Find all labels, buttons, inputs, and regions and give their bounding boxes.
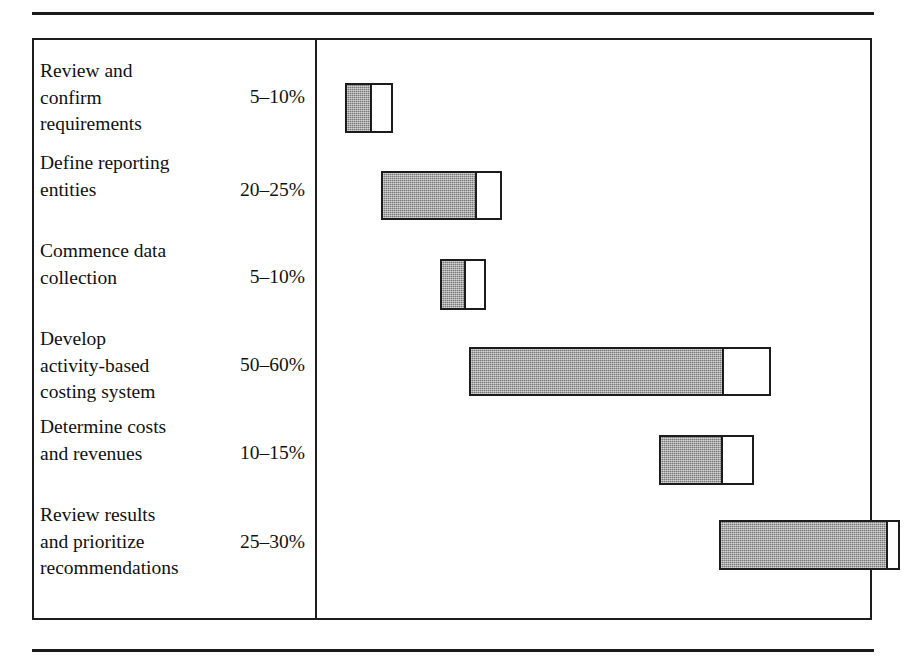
task-name-1: Review and confirm requirements [40, 58, 210, 138]
gantt-bar-3-filled-segment [442, 261, 466, 308]
gantt-bar-5-filled-segment [661, 437, 723, 483]
task-name-2: Define reporting entities [40, 150, 210, 203]
gantt-bar-2-filled-segment [383, 173, 477, 218]
gantt-bar-4-open-segment [724, 349, 769, 394]
gantt-bar-2-open-segment [477, 173, 500, 218]
task-effort-2: 20–25% [240, 177, 305, 204]
gantt-plot-area [317, 40, 870, 618]
gantt-bar-4[interactable] [469, 347, 771, 396]
task-effort-6: 25–30% [240, 529, 305, 556]
task-name-3: Commence data collection [40, 238, 210, 291]
gantt-bar-3-open-segment [466, 261, 484, 308]
gantt-bar-1-filled-segment [347, 85, 372, 131]
task-effort-1: 5–10% [250, 84, 305, 111]
gantt-bar-1-open-segment [372, 85, 391, 131]
task-effort-5: 10–15% [240, 440, 305, 467]
bottom-horizontal-rule [32, 649, 874, 652]
task-effort-4: 50–60% [240, 352, 305, 379]
gantt-bar-4-filled-segment [471, 349, 724, 394]
gantt-bar-6[interactable] [719, 520, 900, 570]
gantt-bar-6-filled-segment [721, 522, 888, 568]
gantt-bar-5[interactable] [659, 435, 754, 485]
task-label-column: Review and confirm requirements 5–10% De… [34, 40, 315, 618]
gantt-chart-page: { "figure": { "bar_border_color": "#1c1c… [0, 0, 904, 665]
gantt-bar-3[interactable] [440, 259, 486, 310]
task-name-4: Develop activity-based costing system [40, 326, 210, 406]
gantt-bar-2[interactable] [381, 171, 502, 220]
gantt-bar-6-open-segment [888, 522, 898, 568]
gantt-bar-5-open-segment [723, 437, 752, 483]
task-effort-3: 5–10% [250, 264, 305, 291]
task-name-5: Determine costs and revenues [40, 414, 210, 467]
chart-frame: Review and confirm requirements 5–10% De… [32, 38, 872, 620]
task-name-6: Review results and prioritize recommenda… [40, 502, 210, 582]
top-horizontal-rule [32, 12, 874, 15]
gantt-bar-1[interactable] [345, 83, 393, 133]
